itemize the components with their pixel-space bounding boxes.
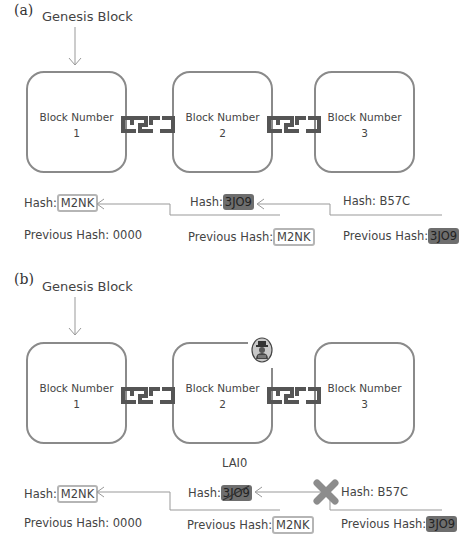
block-title: Block Number xyxy=(316,109,413,125)
block-title: Block Number xyxy=(174,109,271,125)
genesis-arrow-a xyxy=(66,27,86,67)
block-number: 2 xyxy=(174,125,271,141)
block-title: Block Number xyxy=(28,109,125,125)
block-title: Block Number xyxy=(28,380,125,396)
hacker-icon xyxy=(251,337,273,363)
chain-link-icon xyxy=(266,116,322,134)
block-number: 2 xyxy=(174,396,271,412)
genesis-label-b: Genesis Block xyxy=(42,279,133,294)
chain-link-icon xyxy=(120,116,176,134)
hash-pointer-arrows-b xyxy=(0,480,467,540)
genesis-label-a: Genesis Block xyxy=(42,9,133,24)
block-3-a: Block Number3 xyxy=(314,71,415,173)
block-number: 3 xyxy=(316,396,413,412)
chain-link-icon xyxy=(266,387,322,405)
block-number: 1 xyxy=(28,396,125,412)
genesis-arrow-b xyxy=(66,297,86,337)
panel-label-b: (b) xyxy=(14,271,34,287)
tampered-hash-label: LAI0 xyxy=(222,456,247,470)
block-title: Block Number xyxy=(174,380,271,396)
chain-link-icon xyxy=(120,387,176,405)
block-2-a: Block Number2 xyxy=(172,71,273,173)
block-title: Block Number xyxy=(316,380,413,396)
block-number: 1 xyxy=(28,125,125,141)
hash-pointer-arrows-a xyxy=(0,190,467,250)
panel-label-a: (a) xyxy=(14,2,33,18)
block-number: 3 xyxy=(316,125,413,141)
red-x-icon xyxy=(313,479,339,505)
block-1-a: Block Number1 xyxy=(26,71,127,173)
block-1-b: Block Number1 xyxy=(26,342,127,444)
block-3-b: Block Number3 xyxy=(314,342,415,444)
